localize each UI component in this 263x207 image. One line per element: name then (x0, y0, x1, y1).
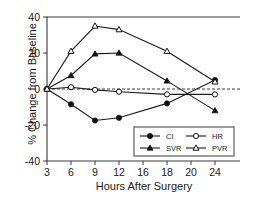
y-tick-label: -20 (25, 119, 40, 131)
x-tick-label: 20 (185, 166, 197, 178)
y-tick-label: 20 (28, 47, 40, 59)
data-point-ci (68, 102, 73, 107)
data-point-ci (92, 118, 97, 123)
legend-label-pvr: PVR (212, 144, 228, 153)
x-tick-label: 16 (137, 166, 149, 178)
x-tick-label: 6 (68, 166, 74, 178)
data-point-ci (116, 115, 121, 120)
series-line-pvr (47, 26, 215, 89)
legend-marker-ci (147, 133, 152, 138)
data-series-markers (44, 23, 218, 123)
data-point-hr (116, 89, 121, 94)
data-point-svr (164, 78, 170, 83)
x-tick-label: 9 (92, 166, 98, 178)
plot-area: 40200-20-40 3691216182024 CIHRSVRPVR (0, 0, 263, 207)
data-point-hr (92, 87, 97, 92)
x-tick-label: 3 (44, 166, 50, 178)
legend-label-svr: SVR (166, 144, 182, 153)
x-tick-label: 24 (209, 166, 221, 178)
legend-label-ci: CI (166, 132, 174, 141)
y-tick-label: 40 (28, 11, 40, 23)
data-point-hr (164, 92, 169, 97)
x-axis-tick-labels: 3691216182024 (44, 166, 221, 178)
y-tick-label: 0 (34, 83, 40, 95)
data-point-pvr (92, 23, 98, 28)
data-point-hr (68, 85, 73, 90)
line-chart-figure: % Change from Baseline Hours After Surge… (0, 0, 263, 207)
x-tick-label: 12 (113, 166, 125, 178)
data-point-svr (212, 108, 218, 113)
data-point-hr (212, 92, 217, 97)
chart-legend: CIHRSVRPVR (134, 127, 234, 156)
data-point-ci (164, 101, 169, 106)
y-tick-label: -40 (25, 155, 40, 167)
legend-marker-hr (193, 133, 198, 138)
x-axis-ticks (47, 161, 215, 165)
legend-label-hr: HR (212, 132, 223, 141)
y-axis-tick-labels: 40200-20-40 (25, 11, 40, 167)
x-tick-label: 18 (161, 166, 173, 178)
